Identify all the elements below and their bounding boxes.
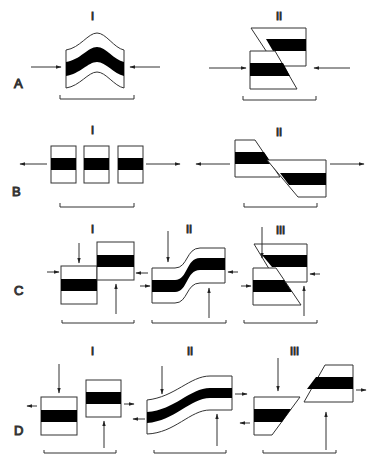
- a1-fold: [66, 33, 124, 88]
- numeral-a1: I: [91, 10, 94, 22]
- c2-bracket: [152, 320, 226, 323]
- c2-monocline: [152, 248, 225, 303]
- numeral-b1: I: [91, 124, 94, 136]
- d3-fault: [254, 365, 353, 435]
- row-label-a: A: [14, 76, 23, 91]
- row-label-c: C: [14, 283, 23, 298]
- numeral-c2: II: [186, 223, 192, 235]
- numeral-b2: II: [276, 126, 282, 138]
- row-label-d: D: [14, 423, 23, 438]
- b1-blocks: [51, 146, 143, 183]
- c3-fault: [253, 244, 307, 305]
- a2-reverse-fault: [250, 28, 306, 89]
- b2-bracket: [244, 203, 317, 207]
- a1-bracket: [60, 95, 134, 99]
- numeral-d1: I: [91, 345, 94, 357]
- numeral-c1: I: [91, 223, 94, 235]
- c3-bracket: [244, 320, 317, 323]
- d1-blocks: [41, 380, 121, 435]
- d2-bracket: [154, 450, 226, 453]
- numeral-c3: III: [276, 224, 285, 236]
- deformation-diagram: A I II B I II C I: [0, 0, 378, 464]
- numeral-a2: II: [276, 10, 282, 22]
- numeral-d2: II: [187, 345, 193, 357]
- c1-bracket: [62, 320, 134, 323]
- d3-bracket: [263, 450, 336, 453]
- c1-blocks: [61, 242, 134, 304]
- row-label-b: B: [12, 184, 21, 199]
- a2-bracket: [243, 96, 316, 100]
- d2-flexure: [147, 376, 232, 434]
- b2-normal-fault: [235, 140, 326, 197]
- b1-bracket: [60, 203, 134, 207]
- numeral-d3: III: [290, 345, 299, 357]
- d1-bracket: [44, 450, 116, 453]
